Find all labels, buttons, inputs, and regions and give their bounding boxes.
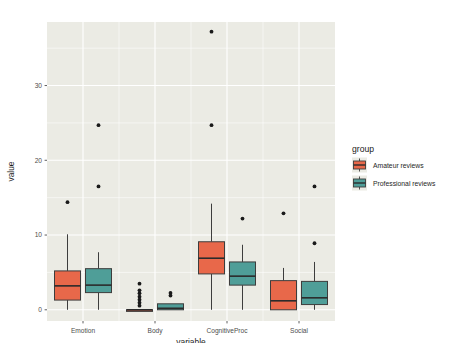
outlier-point — [313, 185, 317, 189]
x-axis: EmotionBodyCognitiveProcSocial — [71, 321, 309, 335]
legend-item-label: Amateur reviews — [373, 162, 424, 169]
y-tick-label: 0 — [38, 306, 42, 313]
x-tick-label: Social — [290, 327, 308, 334]
outlier-point — [138, 288, 142, 292]
outlier-point — [210, 123, 214, 127]
box-rect — [302, 281, 328, 304]
outlier-point — [97, 123, 101, 127]
y-axis: 0102030 — [35, 82, 47, 313]
y-tick-label: 10 — [35, 231, 43, 238]
outlier-point — [138, 282, 142, 286]
chart-canvas: 0102030EmotionBodyCognitiveProcSocialvar… — [0, 0, 449, 343]
outlier-point — [138, 295, 142, 299]
box-rect — [230, 262, 256, 285]
x-tick-label: Emotion — [71, 327, 96, 334]
legend: groupAmateur reviewsProfessional reviews — [352, 144, 436, 191]
x-tick-label: CognitiveProc — [206, 327, 248, 335]
box-rect — [86, 269, 112, 293]
legend-item-label: Professional reviews — [373, 180, 436, 187]
box-rect — [271, 281, 297, 310]
outlier-point — [282, 211, 286, 215]
legend-item[interactable]: Professional reviews — [352, 176, 436, 191]
figure-caption — [0, 343, 449, 354]
y-tick-label: 20 — [35, 157, 43, 164]
legend-title: group — [352, 144, 374, 154]
outlier-point — [169, 291, 173, 295]
boxplot-figure: 0102030EmotionBodyCognitiveProcSocialvar… — [0, 0, 449, 354]
y-axis-title: value — [6, 161, 16, 181]
y-tick-label: 30 — [35, 82, 43, 89]
outlier-point — [241, 217, 245, 221]
outlier-point — [313, 241, 317, 245]
outlier-point — [210, 30, 214, 34]
legend-item[interactable]: Amateur reviews — [352, 158, 424, 173]
outlier-point — [66, 200, 70, 204]
outlier-point — [97, 185, 101, 189]
x-tick-label: Body — [147, 327, 163, 335]
